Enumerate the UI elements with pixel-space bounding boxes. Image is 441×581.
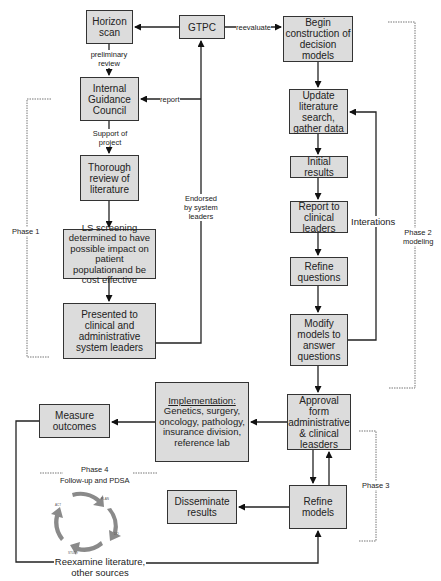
phase4-title: Phase 4	[81, 465, 109, 474]
support-of-project-label: Support of project	[91, 129, 129, 147]
refine-models-box: Refine models	[289, 485, 347, 529]
svg-text:DO: DO	[114, 532, 119, 536]
horizon-scan-box: Horizon scan	[86, 10, 133, 44]
refine-questions-label: Refine questions	[292, 261, 346, 283]
internal-guidance-label: Internal Guidance Council	[82, 83, 137, 116]
measure-outcomes-label: Measure outcomes	[41, 410, 108, 432]
gtpc-box: GTPC	[179, 15, 225, 39]
svg-text:STUDY: STUDY	[68, 551, 78, 555]
begin-construction-label: Begin construction of decision models	[285, 17, 351, 61]
implementation-body: Genetics, surgery, oncology, pathology, …	[157, 406, 247, 448]
report-clinical-box: Report to clinical leaders	[290, 201, 348, 233]
flowchart-canvas: PLAN DO STUDY ACT Horizon scan GTPC Begi…	[0, 0, 441, 581]
svg-text:ACT: ACT	[55, 503, 61, 507]
thorough-review-box: Thorough review of literature	[80, 155, 139, 201]
initial-results-box: Initial results	[290, 156, 348, 178]
refine-questions-box: Refine questions	[290, 257, 348, 286]
approval-box: Approval form administrative & clinical …	[287, 394, 351, 450]
phase2-label: Phase 2 modeling	[403, 228, 433, 246]
modify-models-label: Modify models to answer questions	[292, 318, 346, 362]
svg-text:PLAN: PLAN	[101, 497, 109, 501]
presented-label: Presented to clinical and administrative…	[65, 309, 154, 353]
implementation-box: Implementation: Genetics, surgery, oncol…	[155, 382, 249, 462]
phase3-label: Phase 3	[362, 481, 390, 490]
ls-screening-box: LS screening determined to have possible…	[63, 229, 156, 279]
ls-screening-label: LS screening determined to have possible…	[65, 223, 154, 286]
update-literature-box: Update literature search, gather data	[289, 89, 348, 134]
begin-construction-box: Begin construction of decision models	[283, 16, 353, 62]
gtpc-label: GTPC	[188, 22, 216, 33]
initial-results-label: Initial results	[292, 156, 346, 178]
thorough-review-label: Thorough review of literature	[82, 162, 137, 195]
disseminate-label: Disseminate results	[169, 496, 235, 518]
preliminary-review-label: preliminary review	[86, 50, 132, 68]
measure-outcomes-box: Measure outcomes	[39, 404, 110, 438]
refine-models-label: Refine models	[291, 496, 345, 518]
endorsed-label: Endorsed by system leaders	[181, 194, 221, 221]
pdsa-cycle-icon	[51, 492, 121, 555]
horizon-scan-label: Horizon scan	[88, 16, 131, 38]
report-clinical-label: Report to clinical leaders	[292, 201, 346, 234]
phase1-label: Phase 1	[12, 227, 40, 236]
modify-models-box: Modify models to answer questions	[290, 314, 348, 366]
report-label: report	[160, 95, 180, 104]
reexamine-label: Reexamine literature, other sources	[54, 556, 146, 578]
presented-box: Presented to clinical and administrative…	[63, 303, 156, 359]
interations-label: Interations	[351, 216, 395, 227]
reevaluate-label: reevaluate	[236, 23, 271, 32]
phase4-subtitle: Follow-up and PDSA	[60, 476, 130, 485]
update-literature-label: Update literature search, gather data	[291, 90, 346, 134]
internal-guidance-box: Internal Guidance Council	[80, 77, 139, 121]
disseminate-box: Disseminate results	[167, 490, 237, 524]
approval-label: Approval form administrative & clinical …	[288, 395, 350, 450]
